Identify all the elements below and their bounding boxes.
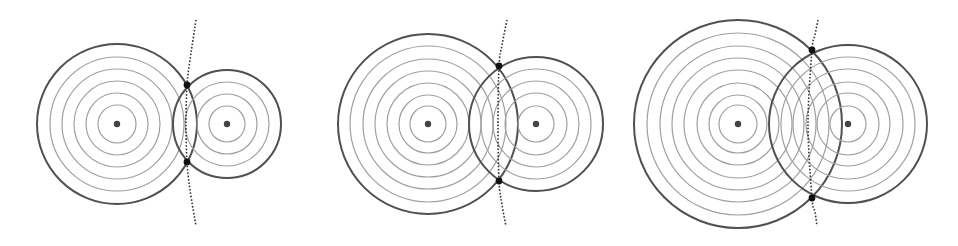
wave-interference-figure <box>0 0 958 246</box>
source-point-dot <box>533 121 539 127</box>
source-point-dot <box>114 121 120 127</box>
intersection-point-dot <box>184 82 191 89</box>
wave-source-left <box>338 34 518 214</box>
wave-source-right <box>469 57 603 191</box>
source-point-dot <box>845 121 851 127</box>
intersection-point-dot <box>496 63 503 70</box>
source-point-dot <box>224 121 230 127</box>
diagram-panel-2 <box>338 20 603 226</box>
diagram-panel-1 <box>37 20 281 226</box>
source-point-dot <box>735 121 741 127</box>
intersection-point-dot <box>809 195 816 202</box>
figure-canvas <box>0 0 958 246</box>
wave-source-right <box>769 45 927 203</box>
panels <box>37 20 927 228</box>
dotted-locus-curve <box>186 20 196 226</box>
diagram-panel-3 <box>634 20 927 228</box>
intersection-point-dot <box>496 178 503 185</box>
source-point-dot <box>425 121 431 127</box>
intersection-point-dot <box>184 159 191 166</box>
intersection-point-dot <box>809 47 816 54</box>
